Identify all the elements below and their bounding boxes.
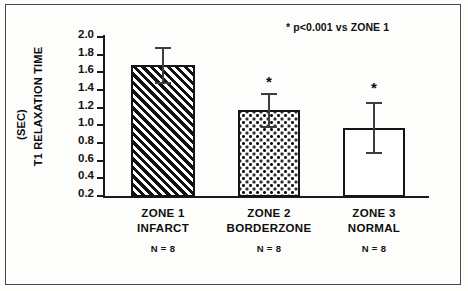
error-bar-stem-zone-3: [373, 102, 375, 154]
y-axis-line: [103, 35, 105, 198]
y-tick-label-0-2: 0.2: [54, 187, 94, 199]
y-tick-1-8: [97, 54, 104, 56]
error-bar-stem-zone-2: [268, 93, 270, 127]
y-tick-0-2: [97, 195, 104, 197]
y-tick-label-0-4: 0.4: [54, 169, 94, 181]
error-bar-cap-upper-zone-2: [261, 93, 277, 95]
error-bar-stem-zone-1: [162, 47, 164, 83]
y-tick-1-2: [97, 107, 104, 109]
y-tick-2-0: [97, 36, 104, 38]
error-bar-cap-lower-zone-3: [366, 152, 382, 154]
y-tick-0-8: [97, 142, 104, 144]
y-tick-1-6: [97, 71, 104, 73]
y-tick-label-1-2: 1.2: [54, 99, 94, 111]
figure-container: * p<0.001 vs ZONE 1 T1 RELAXATION TIME (…: [0, 0, 468, 291]
y-tick-0-6: [97, 160, 104, 162]
y-tick-1-0: [97, 124, 104, 126]
error-bar-cap-upper-zone-1: [155, 47, 171, 49]
y-tick-label-1-8: 1.8: [54, 46, 94, 58]
bar-zone-1: [131, 65, 195, 197]
significance-star-zone-3: *: [364, 80, 384, 95]
category-label-zone-3: ZONE 3 NORMAL N = 8: [304, 206, 444, 254]
plot-area: 2.0 1.8 1.6 1.4 1.2 1.0 0.8 0.6 0.4 0.2: [0, 0, 468, 291]
error-bar-cap-lower-zone-1: [155, 82, 171, 84]
error-bar-cap-lower-zone-2: [261, 126, 277, 128]
error-bar-cap-upper-zone-3: [366, 102, 382, 104]
sample-size-zone-3: N = 8: [304, 243, 444, 254]
y-tick-1-4: [97, 89, 104, 91]
y-tick-label-1-4: 1.4: [54, 81, 94, 93]
y-tick-label-0-8: 0.8: [54, 134, 94, 146]
y-tick-label-2-0: 2.0: [54, 28, 94, 40]
significance-star-zone-2: *: [259, 74, 279, 89]
category-label-zone-3-line2: NORMAL: [304, 221, 444, 236]
y-tick-label-1-6: 1.6: [54, 63, 94, 75]
y-tick-label-1-0: 1.0: [54, 116, 94, 128]
y-tick-0-4: [97, 177, 104, 179]
category-label-zone-3-line1: ZONE 3: [304, 206, 444, 221]
y-tick-label-0-6: 0.6: [54, 152, 94, 164]
